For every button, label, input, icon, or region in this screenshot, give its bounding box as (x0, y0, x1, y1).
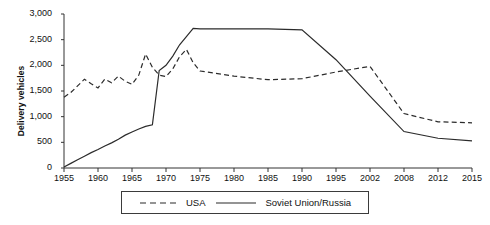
legend-swatch-soviet (215, 198, 257, 208)
chart-legend: USA Soviet Union/Russia (121, 191, 369, 214)
legend-swatch-usa (139, 198, 177, 208)
data-series-group (64, 28, 472, 167)
legend-label-soviet: Soviet Union/Russia (266, 197, 352, 208)
axis-lines (61, 14, 472, 172)
series-line-soviet-union-russia (64, 28, 472, 167)
chart-figure: Delivery vehicles 05001,0001,5002,0002,5… (0, 0, 490, 225)
series-line-usa (64, 49, 472, 122)
legend-label-usa: USA (186, 197, 206, 208)
